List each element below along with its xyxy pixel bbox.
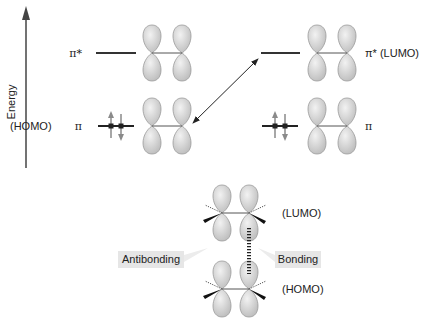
energy-axis-label: Energy: [5, 84, 17, 119]
right-pi-orbital-icon: [308, 98, 356, 154]
overlap-diagram: (LUMO) (HOMO) Antibonding Bonding: [118, 185, 324, 317]
right-pi-star-level: π* (LUMO): [261, 25, 419, 81]
left-homo-label: (HOMO): [10, 120, 52, 132]
antibonding-callout: Antibonding: [118, 248, 208, 268]
left-pi-label: π: [75, 120, 82, 133]
left-pi-star-orbital-icon: [143, 25, 191, 81]
left-pi-level: (HOMO) π: [10, 98, 191, 154]
bonding-callout: Bonding: [258, 248, 321, 268]
right-pi-star-orbital-icon: [308, 25, 356, 81]
antibonding-label: Antibonding: [122, 253, 180, 265]
left-pi-star-level: π*: [69, 25, 191, 81]
left-pi-star-label: π*: [69, 47, 82, 60]
right-pi-label: π: [365, 120, 372, 133]
homo-lumo-interaction-arrow: [193, 59, 258, 123]
fmo-diagram: Energy π* (HOMO) π π* (LUMO) π (LUMO): [0, 0, 423, 318]
right-electron-pair-icon: [262, 111, 298, 141]
bottom-homo-label: (HOMO): [282, 283, 324, 295]
right-pi-level: π: [262, 98, 372, 154]
left-electron-pair-icon: [98, 111, 134, 141]
energy-axis: Energy: [5, 6, 30, 168]
bonding-label: Bonding: [278, 253, 318, 265]
bottom-lumo-label: (LUMO): [282, 207, 321, 219]
left-pi-orbital-icon: [143, 98, 191, 154]
right-pi-star-label: π* (LUMO): [365, 47, 419, 59]
